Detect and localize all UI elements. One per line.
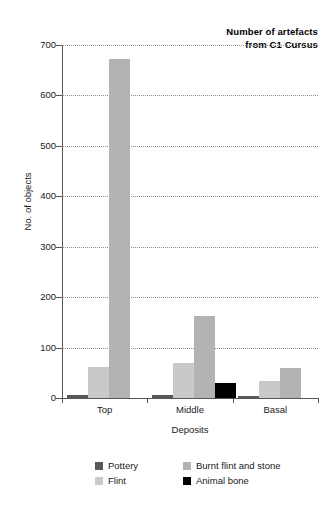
x-axis-separator <box>318 398 319 403</box>
gridline <box>62 45 318 46</box>
legend-label: Pottery <box>108 460 138 471</box>
bar <box>194 316 215 398</box>
bar <box>67 395 88 398</box>
x-axis-title: Deposits <box>62 424 318 435</box>
bar <box>173 363 194 398</box>
legend-label: Animal bone <box>196 475 249 486</box>
legend-entry: Animal bone <box>183 475 315 486</box>
x-axis-separator <box>62 398 63 403</box>
x-axis-group-label: Basal <box>235 404 315 415</box>
chart-legend: PotteryBurnt flint and stoneFlintAnimal … <box>95 458 315 488</box>
x-axis-separator <box>233 398 234 403</box>
y-axis-tick-label: 700 <box>10 39 56 50</box>
y-axis-tick-label: 100 <box>10 342 56 353</box>
bar <box>215 383 236 398</box>
bar <box>88 367 109 398</box>
bar <box>280 368 301 398</box>
y-axis-tick-label: 600 <box>10 89 56 100</box>
legend-swatch-icon <box>95 477 103 485</box>
gridline <box>62 95 318 96</box>
legend-label: Burnt flint and stone <box>196 460 281 471</box>
gridline <box>62 348 318 349</box>
gridline <box>62 297 318 298</box>
x-axis-group-label: Top <box>65 404 145 415</box>
bar <box>152 395 173 398</box>
gridline <box>62 146 318 147</box>
gridline <box>62 247 318 248</box>
y-axis-tick-label: 200 <box>10 291 56 302</box>
y-axis-tick-label: 300 <box>10 241 56 252</box>
y-axis-tick-label: 400 <box>10 190 56 201</box>
x-axis-line <box>62 398 318 399</box>
x-axis-separator <box>147 398 148 403</box>
gridline <box>62 196 318 197</box>
y-axis-tick-label: 0 <box>10 392 56 403</box>
legend-entry: Burnt flint and stone <box>183 460 315 471</box>
x-axis-group-label: Middle <box>150 404 230 415</box>
y-axis-tick-label: 500 <box>10 140 56 151</box>
chart-figure: Number of artefacts from C1 Cursus No. o… <box>0 0 331 511</box>
legend-entry: Flint <box>95 475 183 486</box>
bar <box>238 396 259 398</box>
legend-swatch-icon <box>183 477 191 485</box>
plot-area <box>62 45 318 398</box>
legend-swatch-icon <box>183 462 191 470</box>
bar <box>259 381 280 398</box>
bar <box>109 59 130 398</box>
legend-label: Flint <box>108 475 126 486</box>
legend-entry: Pottery <box>95 460 183 471</box>
legend-swatch-icon <box>95 462 103 470</box>
